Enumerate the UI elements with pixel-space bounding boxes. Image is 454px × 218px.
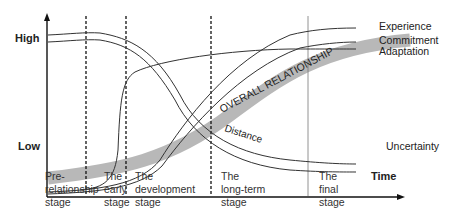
y-axis-low-label: Low	[18, 140, 40, 152]
distance-label: Distance	[223, 122, 264, 145]
uncertainty-curve	[48, 33, 356, 164]
stage-label-development: The development stage	[135, 170, 195, 209]
stage-label-early: The early stage	[104, 170, 130, 209]
x-axis-arrow-icon	[397, 194, 405, 200]
stage-label-long-term: The long-term stage	[221, 170, 265, 209]
y-axis-arrow-icon	[44, 13, 50, 21]
overall-relationship-label: OVERALL RELATIONSHIP	[217, 44, 335, 114]
stage-label-pre-relationship: Pre- relationship stage	[45, 170, 99, 209]
experience-label: Experience	[379, 20, 432, 32]
x-axis-time-label: Time	[371, 170, 396, 182]
y-axis-high-label: High	[15, 32, 39, 44]
adaptation-label: Adaptation	[379, 45, 429, 57]
uncertainty-label: Uncertainty	[386, 140, 439, 152]
stage-label-final: The final stage	[319, 170, 345, 209]
